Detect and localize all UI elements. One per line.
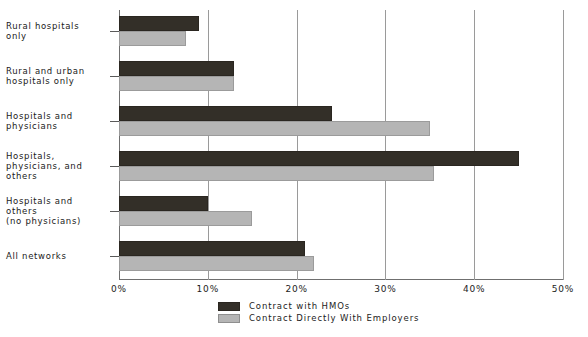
category-label-line: only (6, 31, 111, 41)
category-label-line: Rural hospitals (6, 21, 111, 31)
category-tick (110, 166, 119, 167)
legend-item: Contract with HMOs (218, 300, 419, 312)
category-tick (110, 211, 119, 212)
x-tick-label: 30% (374, 284, 396, 294)
category-tick (110, 256, 119, 257)
bar-employer (119, 211, 252, 226)
x-tick-label: 50% (552, 284, 574, 294)
legend-swatch-light (218, 314, 240, 323)
bar-employer (119, 76, 234, 91)
bar-hmo (119, 106, 332, 121)
legend-item: Contract Directly With Employers (218, 312, 419, 324)
category-label: Hospitals andphysicians (6, 111, 111, 131)
category-label-line: Hospitals and (6, 111, 111, 121)
x-tick-label: 20% (285, 284, 307, 294)
category-label-line: physicians (6, 121, 111, 131)
category-label-line: others (6, 171, 111, 181)
x-tick-label: 10% (197, 284, 219, 294)
category-tick (110, 31, 119, 32)
bar-chart: Rural hospitalsonlyRural and urbanhospit… (0, 0, 588, 337)
category-tick (110, 76, 119, 77)
x-axis-line (119, 279, 563, 280)
category-label-line: Rural and urban (6, 66, 111, 76)
category-label: Hospitals,physicians, andothers (6, 151, 111, 181)
category-label-line: All networks (6, 251, 111, 261)
chart-legend: Contract with HMOsContract Directly With… (218, 300, 419, 324)
bar-hmo (119, 61, 234, 76)
bar-hmo (119, 16, 199, 31)
gridline-10 (208, 10, 209, 280)
gridline-30 (385, 10, 386, 280)
x-tick-label: 40% (463, 284, 485, 294)
category-label-line: Hospitals, (6, 151, 111, 161)
category-label-line: others (6, 206, 111, 216)
category-label: Rural hospitalsonly (6, 21, 111, 41)
bar-employer (119, 256, 314, 271)
category-label-line: Hospitals and (6, 196, 111, 206)
gridline-50 (563, 10, 564, 280)
y-axis-line (119, 10, 120, 280)
category-label: Rural and urbanhospitals only (6, 66, 111, 86)
bar-hmo (119, 241, 305, 256)
category-tick (110, 121, 119, 122)
bar-employer (119, 31, 186, 46)
category-label-line: physicians, and (6, 161, 111, 171)
legend-label: Contract Directly With Employers (249, 313, 419, 323)
category-label: All networks (6, 251, 111, 261)
bar-hmo (119, 151, 519, 166)
gridline-40 (474, 10, 475, 280)
plot-area (119, 10, 563, 280)
legend-swatch-dark (218, 302, 240, 311)
category-label-line: hospitals only (6, 76, 111, 86)
x-tick-label: 0% (111, 284, 127, 294)
category-label-line: (no physicians) (6, 216, 111, 226)
gridline-20 (297, 10, 298, 280)
bar-hmo (119, 196, 208, 211)
bar-employer (119, 121, 430, 136)
legend-label: Contract with HMOs (249, 301, 350, 311)
bar-employer (119, 166, 434, 181)
category-label: Hospitals andothers(no physicians) (6, 196, 111, 226)
